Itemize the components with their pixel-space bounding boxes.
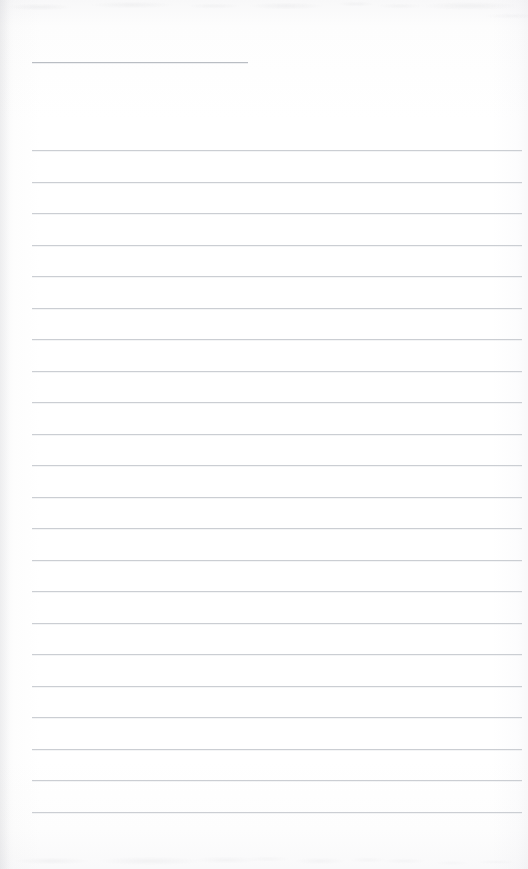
bottom-scan-noise-band xyxy=(0,835,528,869)
ruled-line[interactable] xyxy=(32,717,522,718)
ruled-line[interactable] xyxy=(32,623,522,624)
ruled-line[interactable] xyxy=(32,339,522,340)
ruled-line[interactable] xyxy=(32,434,522,435)
ruled-line[interactable] xyxy=(32,371,522,372)
top-scan-noise-band xyxy=(0,0,528,26)
ruled-line[interactable] xyxy=(32,528,522,529)
ruled-line[interactable] xyxy=(32,182,522,183)
ruled-line[interactable] xyxy=(32,213,522,214)
scanned-page xyxy=(0,0,528,869)
ruled-line[interactable] xyxy=(32,402,522,403)
ruled-line[interactable] xyxy=(32,560,522,561)
ruled-line[interactable] xyxy=(32,245,522,246)
ruled-line[interactable] xyxy=(32,591,522,592)
ruled-line[interactable] xyxy=(32,150,522,151)
ruled-line[interactable] xyxy=(32,276,522,277)
ruled-line[interactable] xyxy=(32,812,522,813)
ruled-line[interactable] xyxy=(32,308,522,309)
ruled-line[interactable] xyxy=(32,465,522,466)
ruled-line[interactable] xyxy=(32,654,522,655)
ruled-line[interactable] xyxy=(32,780,522,781)
ruled-line[interactable] xyxy=(32,686,522,687)
ruled-line[interactable] xyxy=(32,749,522,750)
header-blank-rule[interactable] xyxy=(32,62,248,63)
left-edge-scan-shadow xyxy=(0,0,10,869)
ruled-line[interactable] xyxy=(32,497,522,498)
